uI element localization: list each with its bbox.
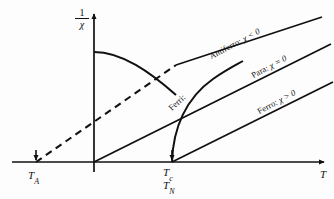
tick-label-TA: TA — [28, 170, 39, 184]
tick-label-TN: TN — [163, 180, 174, 194]
tick-label-TN-sub: N — [169, 187, 174, 196]
curve-ferri-lower — [172, 61, 243, 162]
curve-antiferro-dashed — [36, 65, 176, 162]
x-axis-label: T — [320, 169, 326, 180]
y-axis-label: 1 χ — [74, 8, 90, 30]
y-axis-label-numerator: 1 — [74, 8, 90, 17]
curve-ferri-upper — [94, 52, 176, 95]
tick-label-TA-sub: A — [34, 177, 39, 186]
susceptibility-diagram: 1 χ Antiferro: χ < 0 Para: χ = 0 Ferro: … — [0, 0, 334, 199]
y-axis-label-denominator: χ — [74, 20, 90, 30]
